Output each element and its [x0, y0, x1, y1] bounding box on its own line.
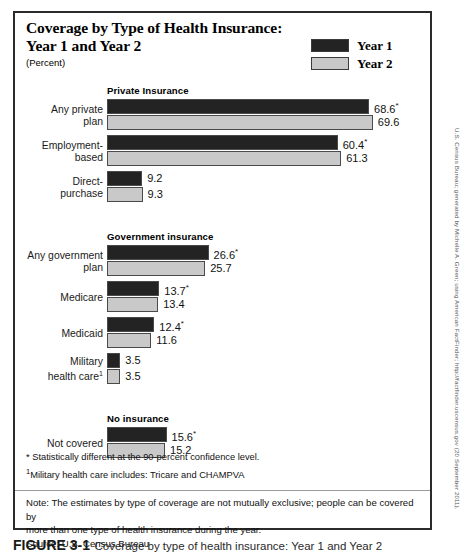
- source-credit-text: U.S. Census Bureau; generated by Michell…: [454, 128, 461, 510]
- chart-row-bars: 12.4*11.6: [107, 317, 430, 351]
- chart-group-rows: Any governmentplan26.6*25.7Medicare13.7*…: [15, 245, 430, 387]
- figure-caption-number: FIGURE 3-1: [13, 537, 90, 553]
- chart-row-bars: 9.29.3: [107, 171, 430, 205]
- chart-bar: [107, 281, 159, 296]
- chart-bar-line: 11.6: [107, 333, 430, 348]
- legend-swatch-icon-year-2: [311, 57, 349, 70]
- chart-row: Any governmentplan26.6*25.7: [15, 245, 430, 279]
- page-title-line-1: Coverage by Type of Health Insurance:: [26, 19, 326, 37]
- chart-bar: [107, 135, 338, 150]
- chart-row-label-line: purchase: [15, 188, 103, 201]
- chart-bar-line: 3.5: [107, 353, 430, 368]
- chart-row-label: Medicare: [15, 281, 103, 315]
- chart-group: Private InsuranceAny privateplan68.6*69.…: [15, 85, 430, 205]
- title-subtitle: (Percent): [26, 56, 326, 69]
- chart-bar-line: 15.6*: [107, 427, 430, 442]
- chart-bar-value: 11.6: [156, 332, 177, 348]
- chart-bar-line: 61.3: [107, 151, 430, 166]
- chart-row-label-line: Employment-: [15, 140, 103, 153]
- chart-row-label-line: plan: [15, 116, 103, 129]
- chart-bar: [107, 261, 205, 276]
- chart-row: Medicare13.7*13.4: [15, 281, 430, 315]
- legend-swatch-icon-year-1: [311, 39, 349, 52]
- chart-bar-value: 9.3: [148, 186, 163, 202]
- title-block: Coverage by Type of Health Insurance: Ye…: [26, 19, 326, 69]
- chart-row-label: Employment-based: [15, 135, 103, 169]
- chart-group-header: Private Insurance: [107, 85, 189, 96]
- chart-bar-value: 13.4: [163, 296, 184, 312]
- chart-bar-value: 3.5: [125, 368, 140, 384]
- chart-row-label-line: based: [15, 152, 103, 165]
- footnote-military: 1Military health care includes: Tricare …: [26, 465, 419, 483]
- chart-legend: Year 1 Year 2: [311, 38, 419, 74]
- chart-row-bars: 60.4*61.3: [107, 135, 430, 169]
- chart-row-label-line: Direct-: [15, 176, 103, 189]
- figure-frame: Coverage by Type of Health Insurance: Ye…: [13, 11, 432, 530]
- chart-row-label: Direct-purchase: [15, 171, 103, 205]
- chart-bar-line: 68.6*: [107, 99, 430, 114]
- chart-bar-value: 69.6: [378, 114, 399, 130]
- chart-bar-line: 9.3: [107, 187, 430, 202]
- chart-row-label-line: Any private: [15, 104, 103, 117]
- chart-bar-line: 26.6*: [107, 245, 430, 260]
- chart-group-rows: Any privateplan68.6*69.6Employment-based…: [15, 99, 430, 205]
- footnotes-block: * Statistically different at the 90-perc…: [26, 451, 419, 482]
- chart-bar-line: 9.2: [107, 171, 430, 186]
- chart-bar-value: 61.3: [346, 150, 367, 166]
- chart-row-label-line: health care1: [15, 368, 103, 384]
- chart-row-bars: 13.7*13.4: [107, 281, 430, 315]
- chart-bar: [107, 171, 142, 186]
- chart-group-header: No insurance: [107, 413, 169, 424]
- chart-row: Any privateplan68.6*69.6: [15, 99, 430, 133]
- chart-bar: [107, 151, 341, 166]
- footnote-military-text: Military health care includes: Tricare a…: [30, 470, 244, 480]
- chart-bar-line: 3.5: [107, 369, 430, 384]
- chart-row: Direct-purchase9.29.3: [15, 171, 430, 205]
- chart-row-label: Any governmentplan: [15, 245, 103, 279]
- chart-bar: [107, 187, 143, 202]
- chart-bar-value: 3.5: [125, 352, 140, 368]
- footnote-significance: * Statistically different at the 90-perc…: [26, 451, 419, 465]
- legend-label-year-2: Year 2: [357, 56, 393, 72]
- figure-caption: FIGURE 3-1 Coverage by type of health in…: [13, 536, 443, 554]
- chart-plot-area: Private InsuranceAny privateplan68.6*69.…: [15, 85, 430, 463]
- chart-group-header: Government insurance: [107, 231, 214, 242]
- note-line-1: Note: The estimates by type of coverage …: [26, 496, 419, 523]
- chart-row: Militaryhealth care13.53.5: [15, 353, 430, 387]
- figure-caption-text: Coverage by type of health insurance: Ye…: [94, 540, 382, 552]
- chart-bar: [107, 115, 373, 130]
- chart-bar: [107, 427, 167, 442]
- chart-bar-line: 12.4*: [107, 317, 430, 332]
- chart-row-label: Militaryhealth care1: [15, 353, 103, 387]
- note-line-2: more than one type of health insurance d…: [26, 523, 419, 537]
- chart-row-bars: 68.6*69.6: [107, 99, 430, 133]
- chart-bar: [107, 317, 154, 332]
- chart-row: Employment-based60.4*61.3: [15, 135, 430, 169]
- chart-bar: [107, 99, 369, 114]
- chart-bar: [107, 245, 209, 260]
- chart-bar-line: 13.7*: [107, 281, 430, 296]
- chart-row-bars: 26.6*25.7: [107, 245, 430, 279]
- chart-bar-line: 25.7: [107, 261, 430, 276]
- chart-row-label-line: Medicare: [15, 292, 103, 305]
- legend-item-year-2: Year 2: [311, 56, 419, 71]
- chart-bar-line: 69.6: [107, 115, 430, 130]
- chart-bar-value: 25.7: [210, 260, 231, 276]
- note-divider: [15, 490, 430, 491]
- chart-row: Medicaid12.4*11.6: [15, 317, 430, 351]
- chart-bar-line: 60.4*: [107, 135, 430, 150]
- chart-bar-line: 13.4: [107, 297, 430, 312]
- chart-bar: [107, 353, 120, 368]
- chart-bar: [107, 333, 151, 348]
- chart-group: Government insuranceAny governmentplan26…: [15, 231, 430, 387]
- chart-row-label-line: Military: [15, 356, 103, 369]
- page-title-line-2: Year 1 and Year 2: [26, 37, 326, 55]
- source-credit-sidebar: U.S. Census Bureau; generated by Michell…: [452, 0, 464, 554]
- chart-bar-value: 9.2: [147, 170, 162, 186]
- chart-row-label-line: Medicaid: [15, 328, 103, 341]
- chart-row-label: Any privateplan: [15, 99, 103, 133]
- legend-label-year-1: Year 1: [357, 38, 393, 54]
- chart-bar: [107, 369, 120, 384]
- chart-row-label-line: plan: [15, 262, 103, 275]
- chart-row-label-line: Any government: [15, 250, 103, 263]
